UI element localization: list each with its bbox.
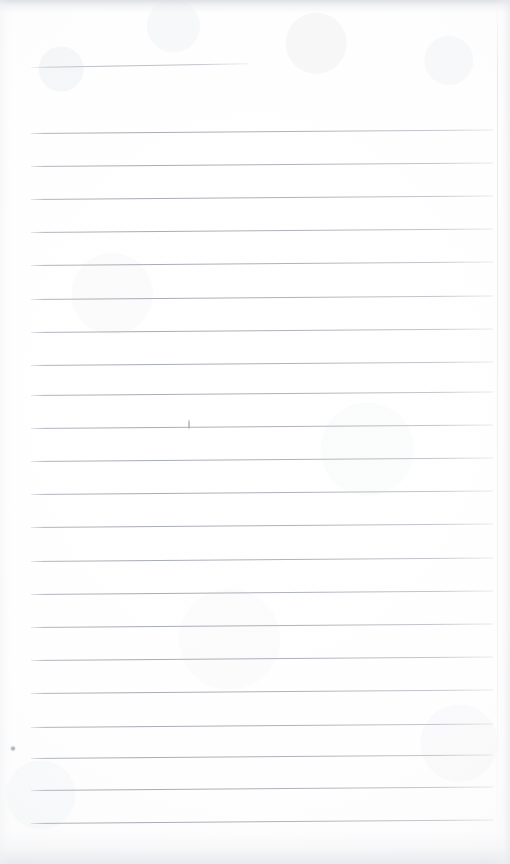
scanned-page	[0, 0, 510, 864]
paper-background	[0, 0, 510, 864]
